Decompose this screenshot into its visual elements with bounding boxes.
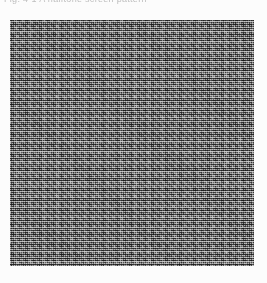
caption-text: Fig. 4-1 A halftone screen pattern	[4, 0, 147, 4]
dither-layer-coarse	[10, 20, 254, 266]
halftone-figure	[10, 20, 254, 266]
clipped-caption-strip: Fig. 4-1 A halftone screen pattern	[0, 0, 267, 8]
scanned-page: Fig. 4-1 A halftone screen pattern	[0, 0, 267, 283]
